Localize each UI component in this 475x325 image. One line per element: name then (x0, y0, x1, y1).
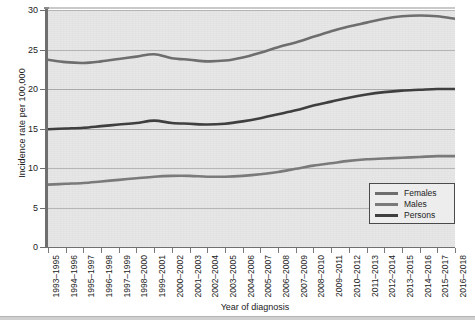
y-tick-mark (40, 50, 46, 51)
x-tick-mark (260, 248, 261, 253)
x-tick-mark (119, 248, 120, 253)
y-tick-label: 5 (16, 204, 38, 213)
x-tick-mark (455, 248, 456, 253)
legend-label-males: Males (404, 200, 427, 209)
legend-swatch-females (375, 192, 398, 195)
legend-item-females: Females (370, 188, 454, 199)
y-tick-mark (40, 10, 46, 11)
x-tick-mark (243, 248, 244, 253)
clipped-title-rule (48, 7, 455, 9)
legend-swatch-males (375, 203, 398, 206)
x-tick-mark (420, 248, 421, 253)
x-tick-mark (296, 248, 297, 253)
legend-swatch-persons (375, 214, 398, 217)
x-tick-mark (154, 248, 155, 253)
x-tick-mark (83, 248, 84, 253)
y-axis-title: Incidence rate per 100,000 (17, 28, 27, 218)
x-tick-mark (190, 248, 191, 253)
y-tick-label: 25 (16, 46, 38, 55)
series-line-persons (48, 89, 455, 129)
y-tick-mark (40, 247, 46, 248)
x-tick-mark (101, 248, 102, 253)
legend-item-persons: Persons (370, 210, 454, 221)
x-axis-title: Year of diagnosis (0, 302, 475, 312)
y-tick-mark (40, 208, 46, 209)
x-tick-mark (437, 248, 438, 253)
legend: Females Males Persons (369, 183, 455, 224)
legend-item-males: Males (370, 199, 454, 210)
series-line-males (48, 156, 455, 184)
y-tick-label: 15 (16, 125, 38, 134)
footer-rule (0, 316, 475, 320)
x-tick-mark (48, 248, 49, 253)
x-tick-mark (384, 248, 385, 253)
x-tick-mark (313, 248, 314, 253)
y-tick-label: 20 (16, 85, 38, 94)
legend-label-females: Females (404, 189, 437, 198)
x-tick-mark (278, 248, 279, 253)
x-tick-mark (172, 248, 173, 253)
y-tick-label: 30 (16, 6, 38, 15)
x-axis-title-text: Year of diagnosis (221, 302, 290, 312)
chart-figure: Incidence rate per 100,000 051015202530 … (0, 0, 475, 325)
clipped-top-strip (0, 0, 475, 9)
legend-label-persons: Persons (404, 211, 435, 220)
x-tick-mark (66, 248, 67, 253)
series-line-females (48, 16, 455, 63)
x-tick-mark (331, 248, 332, 253)
x-tick-mark (367, 248, 368, 253)
y-tick-mark (40, 168, 46, 169)
x-tick-mark (207, 248, 208, 253)
y-tick-mark (40, 89, 46, 90)
x-tick-mark (225, 248, 226, 253)
y-tick-label: 10 (16, 164, 38, 173)
x-tick-mark (136, 248, 137, 253)
x-tick-mark (349, 248, 350, 253)
y-tick-mark (40, 129, 46, 130)
x-tick-mark (402, 248, 403, 253)
y-tick-label: 0 (16, 243, 38, 252)
